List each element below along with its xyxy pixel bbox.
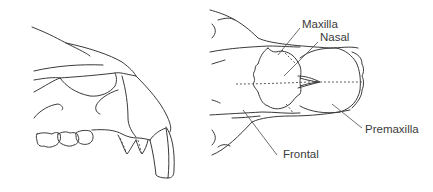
label-frontal: Frontal xyxy=(283,149,319,161)
label-premaxilla: Premaxilla xyxy=(365,124,419,136)
label-nasal: Nasal xyxy=(320,32,349,44)
skull-diagram: Maxilla Nasal Premaxilla Frontal xyxy=(0,0,433,192)
label-maxilla: Maxilla xyxy=(302,19,338,31)
dorsal-skull-drawing xyxy=(0,0,433,192)
